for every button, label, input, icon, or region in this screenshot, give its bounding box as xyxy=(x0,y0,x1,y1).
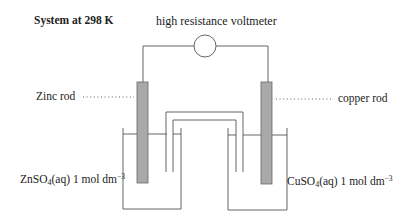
formula-prefix: ZnSO xyxy=(20,173,47,185)
copper-sulfate-solution-label: CuSO4(aq) 1 mol dm−3 xyxy=(287,175,393,189)
formula-prefix: CuSO xyxy=(287,175,315,187)
zinc-sulfate-solution-label: ZnSO4(aq) 1 mol dm−3 xyxy=(20,173,125,187)
zinc-rod-label: Zinc rod xyxy=(36,91,75,103)
voltmeter-icon xyxy=(194,35,216,57)
voltmeter-label: high resistance voltmeter xyxy=(156,15,277,27)
concentration-exponent: −3 xyxy=(385,174,393,183)
copper-rod-label: copper rod xyxy=(338,93,388,105)
concentration: 1 mol dm xyxy=(341,175,385,187)
formula-suffix: (aq) xyxy=(51,173,70,185)
system-temperature-title: System at 298 K xyxy=(34,15,114,27)
formula-suffix: (aq) xyxy=(319,175,338,187)
galvanic-cell-diagram: System at 298 K high resistance voltmete… xyxy=(0,0,409,224)
left-beaker xyxy=(123,128,181,209)
copper-rod xyxy=(261,82,272,184)
right-beaker xyxy=(228,128,287,210)
concentration-exponent: −3 xyxy=(117,172,125,181)
zinc-rod xyxy=(137,82,148,183)
cell-drawing xyxy=(0,0,409,224)
salt-bridge xyxy=(166,112,243,172)
concentration: 1 mol dm xyxy=(73,173,117,185)
